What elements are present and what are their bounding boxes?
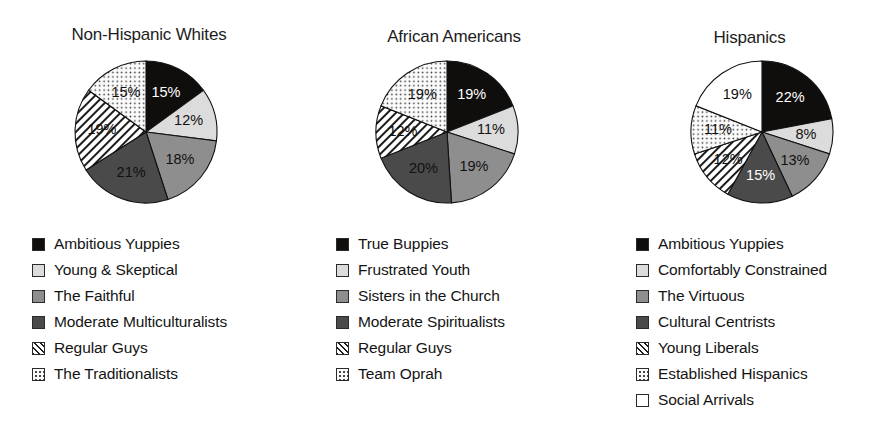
legend-swatch-hatch-icon	[32, 342, 45, 355]
legend-item[interactable]: True Buppies	[336, 231, 505, 257]
pie-slice-label: 11%	[477, 121, 505, 137]
legend-item[interactable]: Ambitious Yuppies	[636, 231, 827, 257]
pie-slice-label: 12%	[714, 151, 743, 167]
legend-item-label: Sisters in the Church	[358, 288, 500, 304]
legend-item[interactable]: Young Liberals	[636, 335, 827, 361]
legend-swatch-black-icon	[636, 238, 649, 251]
pie-slice-label: 19%	[457, 86, 486, 102]
legend-swatch-darkgray-icon	[336, 316, 349, 329]
legend-item-label: Social Arrivals	[658, 392, 754, 408]
legend-item[interactable]: Moderate Spiritualists	[336, 309, 505, 335]
legend-swatch-hatch-icon	[336, 342, 349, 355]
pie-slice-label: 20%	[409, 160, 438, 176]
legend-item-label: Young Liberals	[658, 340, 759, 356]
page-title: Hispanics	[610, 28, 889, 48]
legend-hispanics: Ambitious YuppiesComfortably Constrained…	[636, 231, 827, 413]
legend-item[interactable]: Cultural Centrists	[636, 309, 827, 335]
legend-item[interactable]: The Faithful	[32, 283, 227, 309]
legend-item[interactable]: Moderate Multiculturalists	[32, 309, 227, 335]
legend-swatch-medgray-icon	[636, 290, 649, 303]
pie-chart-african-americans: 19%11%19%20%12%19%	[373, 58, 521, 206]
legend-item[interactable]: Comfortably Constrained	[636, 257, 827, 283]
pie-slice-label: 15%	[151, 84, 180, 100]
pie-svg-african-americans: 19%11%19%20%12%19%	[373, 58, 521, 206]
legend-item-label: Team Oprah	[358, 366, 442, 382]
legend-item-label: Comfortably Constrained	[658, 262, 827, 278]
pie-svg-hispanics: 22%8%13%15%12%11%19%	[688, 58, 836, 206]
pie-slice-label: 22%	[776, 89, 805, 105]
legend-swatch-hatch-icon	[636, 342, 649, 355]
pie-slice-label: 18%	[165, 151, 194, 167]
legend-swatch-medgray-icon	[32, 290, 45, 303]
pie-slice-label: 12%	[174, 112, 203, 128]
pie-slice-label: 19%	[408, 86, 437, 102]
legend-item-label: Moderate Multiculturalists	[54, 314, 227, 330]
legend-swatch-white-icon	[636, 394, 649, 407]
chart-panel-non-hispanic-whites: Non-Hispanic Whites 15%12%18%21%19%15% A…	[0, 0, 310, 424]
legend-swatch-black-icon	[336, 238, 349, 251]
pie-svg-non-hispanic-whites: 15%12%18%21%19%15%	[72, 58, 220, 206]
legend-item-label: Regular Guys	[54, 340, 148, 356]
pie-slice-label: 8%	[795, 126, 816, 142]
page-title: African Americans	[304, 27, 604, 47]
legend-swatch-lightgray-icon	[32, 264, 45, 277]
legend-item[interactable]: Regular Guys	[336, 335, 505, 361]
chart-panel-african-americans: African Americans 19%11%19%20%12%19% Tru…	[310, 0, 610, 424]
legend-swatch-lightgray-icon	[336, 264, 349, 277]
pie-slice-label: 19%	[723, 86, 752, 102]
legend-item[interactable]: The Virtuous	[636, 283, 827, 309]
legend-item-label: The Faithful	[54, 288, 135, 304]
legend-african-americans: True BuppiesFrustrated YouthSisters in t…	[336, 231, 505, 387]
pie-slice-label: 15%	[746, 167, 775, 183]
legend-item[interactable]: The Traditionalists	[32, 361, 227, 387]
pie-slice-label: 15%	[111, 84, 140, 100]
legend-item-label: Established Hispanics	[658, 366, 808, 382]
legend-swatch-darkgray-icon	[32, 316, 45, 329]
legend-item[interactable]: Regular Guys	[32, 335, 227, 361]
page-title: Non-Hispanic Whites	[0, 25, 304, 45]
pie-slice-label: 19%	[87, 121, 116, 137]
legend-item[interactable]: Social Arrivals	[636, 387, 827, 413]
legend-item[interactable]: Sisters in the Church	[336, 283, 505, 309]
legend-swatch-dots-icon	[32, 368, 45, 381]
legend-item[interactable]: Frustrated Youth	[336, 257, 505, 283]
legend-non-hispanic-whites: Ambitious YuppiesYoung & SkepticalThe Fa…	[32, 231, 227, 387]
legend-item-label: Frustrated Youth	[358, 262, 470, 278]
legend-item-label: Moderate Spiritualists	[358, 314, 505, 330]
legend-swatch-dots-icon	[636, 368, 649, 381]
legend-item[interactable]: Ambitious Yuppies	[32, 231, 227, 257]
pie-slice-label: 13%	[780, 152, 809, 168]
pie-chart-non-hispanic-whites: 15%12%18%21%19%15%	[72, 58, 220, 206]
legend-item-label: The Traditionalists	[54, 366, 178, 382]
pie-slice-label: 11%	[704, 121, 732, 137]
legend-item-label: Cultural Centrists	[658, 314, 775, 330]
pie-slice-label: 21%	[117, 164, 146, 180]
pie-slice-label: 12%	[388, 123, 417, 139]
pie-slice-label: 19%	[459, 158, 488, 174]
legend-swatch-medgray-icon	[336, 290, 349, 303]
legend-swatch-black-icon	[32, 238, 45, 251]
legend-item-label: Regular Guys	[358, 340, 452, 356]
legend-item[interactable]: Young & Skeptical	[32, 257, 227, 283]
legend-swatch-lightgray-icon	[636, 264, 649, 277]
legend-item-label: Ambitious Yuppies	[54, 236, 180, 252]
legend-item[interactable]: Established Hispanics	[636, 361, 827, 387]
legend-swatch-darkgray-icon	[636, 316, 649, 329]
pie-chart-hispanics: 22%8%13%15%12%11%19%	[688, 58, 836, 206]
chart-panel-hispanics: Hispanics 22%8%13%15%12%11%19% Ambitious…	[610, 0, 889, 424]
legend-item-label: The Virtuous	[658, 288, 744, 304]
legend-item-label: Ambitious Yuppies	[658, 236, 784, 252]
legend-swatch-dots-icon	[336, 368, 349, 381]
legend-item-label: True Buppies	[358, 236, 448, 252]
legend-item[interactable]: Team Oprah	[336, 361, 505, 387]
legend-item-label: Young & Skeptical	[54, 262, 178, 278]
